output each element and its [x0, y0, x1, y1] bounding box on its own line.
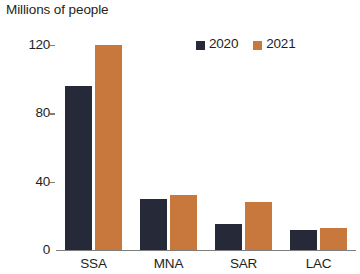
bar-group: [131, 45, 206, 250]
bar-sar-2020: [215, 224, 242, 250]
bar-group-bars: [131, 45, 206, 250]
y-axis-tick-label: 0: [6, 243, 50, 257]
y-axis-tick-label: 120: [6, 38, 50, 52]
y-axis: 04080120: [0, 0, 50, 274]
bar-group-bars: [281, 45, 356, 250]
x-axis-label-mna: MNA: [131, 256, 206, 272]
bar-group: [281, 45, 356, 250]
bar-ssa-2021: [95, 45, 122, 250]
bar-sar-2021: [245, 202, 272, 250]
y-axis-tick-mark: [50, 45, 55, 46]
x-axis-label-lac: LAC: [281, 256, 356, 272]
bar-ssa-2020: [65, 86, 92, 250]
bar-mna-2021: [170, 195, 197, 250]
y-axis-tick-mark: [50, 113, 55, 114]
bar-group: [56, 45, 131, 250]
bar-chart: Millions of people 2020 2021 04080120 SS…: [0, 0, 360, 274]
x-axis-label-sar: SAR: [206, 256, 281, 272]
bar-group-bars: [206, 45, 281, 250]
y-axis-tick-label: 40: [6, 175, 50, 189]
x-axis-label-ssa: SSA: [56, 256, 131, 272]
bar-group: [206, 45, 281, 250]
bar-lac-2020: [290, 230, 317, 251]
x-axis-line: [56, 250, 356, 251]
bar-group-bars: [56, 45, 131, 250]
y-axis-tick-mark: [50, 182, 55, 183]
plot-area: [56, 45, 356, 250]
bar-mna-2020: [140, 199, 167, 250]
y-axis-tick-label: 80: [6, 106, 50, 120]
bar-lac-2021: [320, 228, 347, 250]
